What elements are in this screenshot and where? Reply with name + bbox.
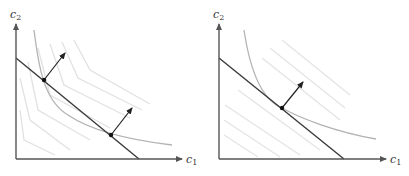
linear-contour-lines: [224, 40, 350, 157]
budget-line-left: [16, 58, 139, 159]
tangency-point-2: [109, 133, 113, 137]
tangency-point-1: [42, 78, 46, 82]
left-panel: c2 c1: [10, 8, 197, 167]
gradient-arrow-2: [111, 108, 132, 135]
y-axis-label-left: c2: [10, 8, 21, 22]
gradient-arrow-right: [282, 82, 303, 108]
diagram-canvas: c2 c1 c2 c1: [0, 0, 409, 176]
indifference-curve-left: [34, 30, 172, 145]
y-axis-label-right: c2: [213, 8, 224, 22]
tangency-point-right: [280, 106, 284, 110]
right-panel: c2 c1: [213, 8, 401, 167]
x-axis-label-right: c1: [390, 153, 401, 167]
x-axis-label-left: c1: [186, 153, 197, 167]
indifference-curve-right: [244, 30, 376, 139]
